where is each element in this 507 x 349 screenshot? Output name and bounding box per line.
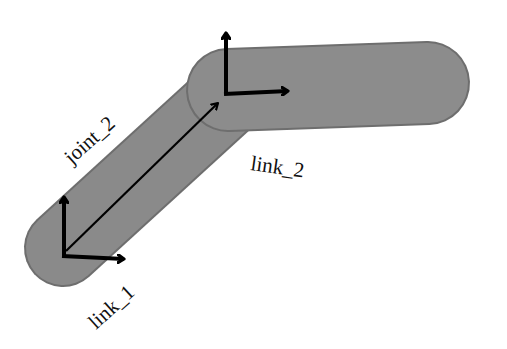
link-1-label: link_1 (83, 280, 139, 334)
link-2-body (228, 83, 428, 90)
robot-arm-diagram: joint_2 link_2 link_1 (0, 0, 507, 349)
link-2-label: link_2 (249, 151, 305, 182)
